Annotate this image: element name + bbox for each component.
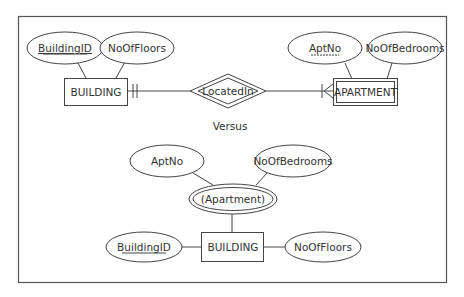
er-diagram: BuildingID NoOfFloors AptNo NoOfBedrooms… <box>0 0 464 297</box>
versus-label: Versus <box>213 120 248 132</box>
svg-text:APARTMENT: APARTMENT <box>334 86 398 98</box>
attr-apt-no: AptNo <box>288 32 362 64</box>
svg-text:NoOfFloors: NoOfFloors <box>294 241 352 253</box>
svg-text:NoOfFloors: NoOfFloors <box>108 42 166 54</box>
svg-text:NoOfBedrooms: NoOfBedrooms <box>253 155 332 167</box>
attr-building-id: BuildingID <box>27 32 103 64</box>
svg-text:BuildingID: BuildingID <box>38 42 92 54</box>
svg-text:(Apartment): (Apartment) <box>201 193 265 205</box>
svg-text:AptNo: AptNo <box>151 155 183 167</box>
svg-text:BUILDING: BUILDING <box>207 241 258 253</box>
entity-building: BUILDING <box>65 79 128 106</box>
svg-text:NoOfBedrooms: NoOfBedrooms <box>365 42 444 54</box>
svg-text:LocatedIn: LocatedIn <box>202 85 253 97</box>
svg-text:AptNo: AptNo <box>309 42 341 54</box>
svg-text:BuildingID: BuildingID <box>117 241 171 253</box>
attr-apartment-multivalued: (Apartment) <box>189 184 277 214</box>
attr-no-of-floors-bottom: NoOfFloors <box>285 232 361 262</box>
attr-no-of-bedrooms-bottom: NoOfBedrooms <box>253 145 332 177</box>
attr-building-id-bottom: BuildingID <box>106 232 182 262</box>
attr-apt-no-bottom: AptNo <box>130 145 204 177</box>
svg-text:BUILDING: BUILDING <box>70 86 121 98</box>
attr-no-of-floors: NoOfFloors <box>100 32 174 64</box>
entity-apartment-weak: APARTMENT <box>334 79 398 106</box>
entity-building-bottom: BUILDING <box>202 233 264 262</box>
